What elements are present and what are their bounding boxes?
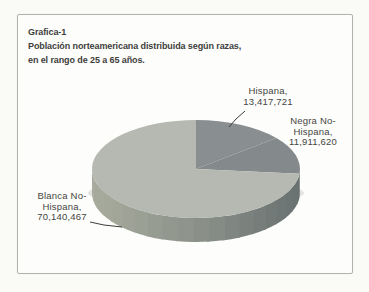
- pie-label-blanca-value: 70,140,467: [27, 212, 97, 223]
- pie-label-blanca-name-1: Blanca No-: [27, 191, 97, 202]
- pie-label-negra-no-hispana: Negra No- Hispana, 11,911,620: [278, 116, 348, 148]
- pie-label-negra-value: 11,911,620: [278, 137, 348, 148]
- pie-label-negra-name-1: Negra No-: [278, 116, 348, 127]
- pie-label-hispana-value: 13,417,721: [228, 97, 308, 108]
- pie-label-hispana-name: Hispana,: [228, 86, 308, 97]
- pie-label-hispana: Hispana, 13,417,721: [228, 86, 308, 107]
- pie-label-blanca-no-hispana: Blanca No- Hispana, 70,140,467: [27, 191, 97, 223]
